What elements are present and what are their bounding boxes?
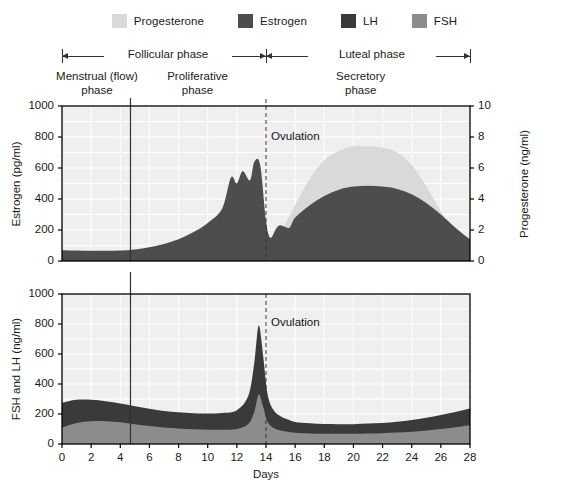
legend-item-lh: LH [341, 14, 378, 28]
subphase-label-line2: phase [133, 84, 263, 98]
y-tick-label: 600 [0, 161, 54, 173]
y-axis-title: FSH and LH (ng/ml) [10, 318, 22, 420]
top-chart-canvas [0, 98, 569, 268]
legend-swatch-lh [341, 14, 356, 28]
x-tick-label: 24 [397, 451, 427, 463]
ovulation-annotation: Ovulation [271, 130, 320, 142]
subphase-label-line1: Proliferative [133, 70, 263, 84]
y-tick-label-right: 0 [478, 254, 484, 266]
legend-label: FSH [434, 15, 457, 27]
subphase-label-line2: phase [296, 84, 426, 98]
x-tick-label: 14 [251, 451, 281, 463]
bottom-chart-canvas [0, 272, 569, 472]
y-tick-label-right: 10 [478, 99, 491, 111]
x-tick-label: 0 [47, 451, 77, 463]
x-tick-label: 4 [105, 451, 135, 463]
legend-swatch-fsh [412, 14, 427, 28]
y-tick-label: 400 [0, 377, 54, 389]
phase-boundary-tick [62, 49, 63, 63]
x-tick-label: 2 [76, 451, 106, 463]
phase-label-luteal: Luteal phase [308, 48, 436, 60]
x-tick-label: 6 [134, 451, 164, 463]
legend-label: Progesterone [134, 15, 204, 27]
x-tick-label: 20 [338, 451, 368, 463]
y-tick-label: 1000 [0, 287, 54, 299]
x-tick-label: 10 [193, 451, 223, 463]
y-tick-label: 200 [0, 223, 54, 235]
y-tick-label: 600 [0, 347, 54, 359]
y-tick-label: 800 [0, 130, 54, 142]
phase-label-follicular: Follicular phase [104, 48, 232, 60]
x-tick-label: 12 [222, 451, 252, 463]
y-tick-label-right: 6 [478, 161, 484, 173]
x-tick-label: 28 [455, 451, 485, 463]
y-tick-label: 1000 [0, 99, 54, 111]
phase-boundary-tick [470, 49, 471, 63]
x-tick-label: 22 [368, 451, 398, 463]
x-tick-label: 26 [426, 451, 456, 463]
subphase-label-line1: Secretory [296, 70, 426, 84]
subphase-label-secretory: Secretoryphase [296, 70, 426, 97]
x-tick-label: 8 [164, 451, 194, 463]
x-tick-label: 18 [309, 451, 339, 463]
y-tick-label-right: 8 [478, 130, 484, 142]
y-tick-label-right: 4 [478, 192, 484, 204]
phase-boundary-tick [266, 49, 267, 63]
y-tick-label: 0 [0, 437, 54, 449]
subphase-label-proliferative: Proliferativephase [133, 70, 263, 97]
legend-label: LH [363, 15, 378, 27]
x-axis-title: Days [62, 468, 470, 480]
legend-label: Estrogen [260, 15, 307, 27]
legend-swatch-progesterone [112, 14, 127, 28]
top-chart-estrogen-progesterone: 020040060080010000246810Estrogen (pg/ml)… [0, 98, 569, 268]
legend-item-estrogen: Estrogen [238, 14, 307, 28]
y-tick-label: 0 [0, 254, 54, 266]
phase-bar-region: Follicular phaseLuteal phaseMenstrual (f… [0, 44, 569, 100]
y-tick-label: 800 [0, 317, 54, 329]
bottom-chart-fsh-lh: 02004006008001000FSH and LH (ng/ml)Ovula… [0, 272, 569, 472]
chart-legend: ProgesteroneEstrogenLHFSH [0, 14, 569, 28]
legend-swatch-estrogen [238, 14, 253, 28]
ovulation-annotation: Ovulation [271, 316, 320, 328]
y-tick-label-right: 2 [478, 223, 484, 235]
y-axis-title-right: Progesterone (ng/ml) [518, 129, 530, 237]
y-tick-label: 200 [0, 407, 54, 419]
x-tick-label: 16 [280, 451, 310, 463]
y-tick-label: 400 [0, 192, 54, 204]
legend-item-fsh: FSH [412, 14, 457, 28]
legend-item-progesterone: Progesterone [112, 14, 204, 28]
y-axis-title: Estrogen (pg/ml) [10, 141, 22, 226]
